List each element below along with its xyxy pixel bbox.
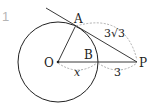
label-b: B	[84, 48, 93, 62]
label-a: A	[73, 12, 83, 26]
geometry-diagram: 1 A O B P 3√3 x 3	[0, 0, 154, 111]
length-ob: x	[74, 66, 81, 79]
length-ap: 3√3	[104, 27, 125, 40]
label-p: P	[139, 56, 147, 70]
segment-oa	[58, 27, 75, 62]
length-bp: 3	[114, 66, 121, 79]
problem-number: 1	[2, 9, 9, 24]
center-point-icon	[57, 61, 60, 64]
label-o: O	[44, 56, 54, 70]
